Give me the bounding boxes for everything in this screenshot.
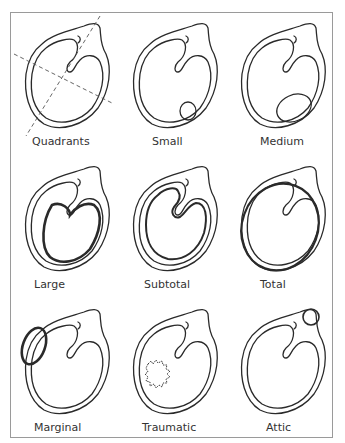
panel-label: Attic [266, 421, 291, 434]
panel-large: Large [12, 157, 120, 299]
panel-traumatic: Traumatic [120, 300, 228, 442]
perforation-large [43, 204, 99, 262]
panel-label: Subtotal [144, 278, 190, 291]
panel-label: Traumatic [142, 421, 196, 434]
panel-label: Total [260, 278, 286, 291]
panel-quadrants: Quadrants [12, 14, 120, 156]
panel-label: Small [152, 135, 183, 148]
panel-label: Large [34, 278, 65, 291]
panel-subtotal: Subtotal [120, 157, 228, 299]
perforation-marginal [17, 324, 51, 367]
panel-label: Marginal [34, 421, 81, 434]
panel-label: Medium [260, 135, 304, 148]
perforation-traumatic [145, 360, 170, 388]
panel-total: Total [228, 157, 336, 299]
panel-label: Quadrants [32, 135, 90, 148]
quadrant-line-vertical [26, 16, 100, 136]
panel-marginal: Marginal [12, 300, 120, 442]
panel-medium: Medium [228, 14, 336, 156]
eardrum-large-drawing [12, 157, 120, 299]
panel-small: Small [120, 14, 228, 156]
panel-attic: Attic [228, 300, 336, 442]
